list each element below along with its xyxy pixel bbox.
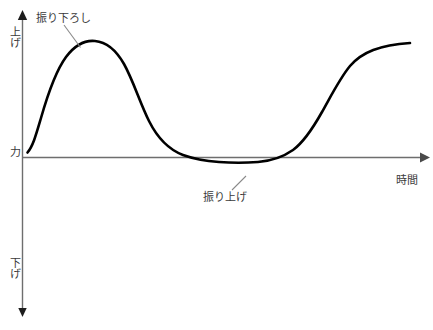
x-axis-arrowhead-icon: [420, 153, 430, 163]
y-axis-label-down: 下げ: [9, 257, 20, 279]
x-axis-label: 時間: [396, 175, 418, 186]
y-axis-label-zero: 力: [9, 146, 20, 157]
graph-canvas: [0, 0, 433, 330]
upswing-leader-line: [232, 176, 246, 190]
force-time-graph: 上げ 力 下げ 時間 振り下ろし 振り上げ: [0, 0, 433, 330]
downswing-leader-line: [64, 25, 81, 48]
y-axis-label-up: 上げ: [9, 26, 20, 48]
annotation-downswing: 振り下ろし: [36, 13, 91, 24]
annotation-upswing: 振り上げ: [203, 192, 247, 203]
force-curve: [28, 41, 411, 163]
y-axis-down-arrowhead-icon: [18, 308, 26, 317]
y-axis-up-arrowhead-icon: [18, 10, 27, 20]
